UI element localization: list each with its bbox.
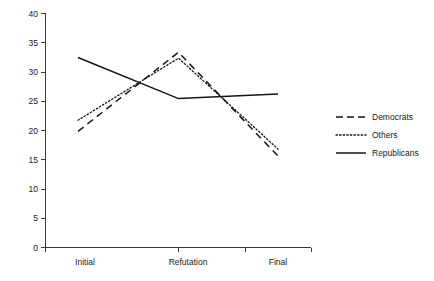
y-tick-label-0: 0 xyxy=(33,243,38,253)
chart-canvas: 40 35 30 25 20 15 10 5 0 Initial xyxy=(0,0,434,281)
series-line-democrats xyxy=(78,52,278,156)
x-tick-label-initial: Initial xyxy=(75,257,95,267)
line-chart: 40 35 30 25 20 15 10 5 0 Initial xyxy=(0,0,434,281)
legend-item-republicans[interactable]: Republicans xyxy=(336,148,419,158)
y-tick-label-15: 15 xyxy=(29,155,39,165)
y-tick-label-30: 30 xyxy=(29,67,39,77)
legend-label-others: Others xyxy=(372,130,398,140)
x-tick-label-final: Final xyxy=(269,257,288,267)
y-tick-label-10: 10 xyxy=(29,184,39,194)
legend: Democrats Others Republicans xyxy=(336,112,419,158)
legend-label-democrats: Democrats xyxy=(372,112,413,122)
y-axis-ticks: 40 35 30 25 20 15 10 5 0 xyxy=(29,9,46,253)
legend-item-democrats[interactable]: Democrats xyxy=(336,112,413,122)
x-axis-ticks: Initial Refutation Final xyxy=(46,248,312,268)
legend-item-others[interactable]: Others xyxy=(336,130,398,140)
y-tick-label-25: 25 xyxy=(29,96,39,106)
y-tick-label-5: 5 xyxy=(33,213,38,223)
legend-label-republicans: Republicans xyxy=(372,148,419,158)
y-tick-label-35: 35 xyxy=(29,38,39,48)
x-tick-label-refutation: Refutation xyxy=(169,257,208,267)
y-tick-label-40: 40 xyxy=(29,9,39,19)
series-line-others xyxy=(78,58,278,149)
y-tick-label-20: 20 xyxy=(29,126,39,136)
series-line-republicans xyxy=(78,58,278,99)
series-group xyxy=(78,52,278,156)
